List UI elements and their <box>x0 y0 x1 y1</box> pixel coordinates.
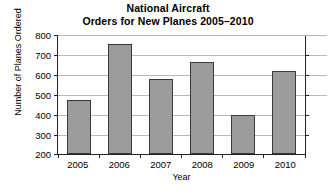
bar-slot-2006 <box>99 35 140 154</box>
bar-2005[interactable] <box>67 100 91 154</box>
x-tick-mark-2 <box>140 154 141 158</box>
bar-slot-2010 <box>264 35 305 154</box>
x-tick-label-2005: 2005 <box>57 159 99 170</box>
y-tick-mark-right-400 <box>305 115 309 116</box>
x-tick-mark-1 <box>99 154 100 158</box>
bar-chart-figure: National Aircraft Orders for New Planes … <box>0 0 336 196</box>
plot-area: 800 700 600 500 400 300 200 <box>57 35 306 155</box>
bar-slot-2007 <box>140 35 181 154</box>
y-tick-label-600: 600 <box>35 70 51 81</box>
y-tick-label-800: 800 <box>35 30 51 41</box>
x-tick-mark-6 <box>305 154 306 158</box>
y-tick-mark-right-500 <box>305 95 309 96</box>
x-tick-label-2006: 2006 <box>99 159 141 170</box>
x-tick-mark-0 <box>58 154 59 158</box>
y-axis-title: Number of Planes Ordered <box>13 0 23 127</box>
bar-2006[interactable] <box>108 44 132 154</box>
x-tick-label-2008: 2008 <box>182 159 224 170</box>
y-tick-label-200: 200 <box>35 149 51 160</box>
y-tick-mark-right-700 <box>305 55 309 56</box>
chart-title: National Aircraft Orders for New Planes … <box>0 2 336 28</box>
bar-slot-2005 <box>58 35 99 154</box>
chart-title-line-2: Orders for New Planes 2005–2010 <box>0 15 336 28</box>
bars-layer <box>58 35 305 154</box>
x-axis-tick-labels: 2005 2006 2007 2008 2009 2010 <box>57 159 306 170</box>
chart-title-line-1: National Aircraft <box>0 2 336 15</box>
y-tick-mark-right-600 <box>305 75 309 76</box>
y-tick-mark-right-300 <box>305 135 309 136</box>
y-tick-label-700: 700 <box>35 50 51 61</box>
x-tick-mark-5 <box>263 154 264 158</box>
x-axis-title: Year <box>57 172 306 182</box>
bar-2008[interactable] <box>190 62 214 154</box>
x-tick-label-2007: 2007 <box>140 159 182 170</box>
x-tick-label-2010: 2010 <box>265 159 307 170</box>
bar-2010[interactable] <box>272 71 296 154</box>
y-tick-label-500: 500 <box>35 90 51 101</box>
y-tick-label-300: 300 <box>35 130 51 141</box>
x-tick-label-2009: 2009 <box>223 159 265 170</box>
bar-slot-2008 <box>182 35 223 154</box>
x-tick-mark-4 <box>222 154 223 158</box>
x-tick-mark-3 <box>181 154 182 158</box>
bar-2007[interactable] <box>149 79 173 154</box>
bar-slot-2009 <box>223 35 264 154</box>
y-tick-label-400: 400 <box>35 110 51 121</box>
bar-2009[interactable] <box>231 115 255 154</box>
